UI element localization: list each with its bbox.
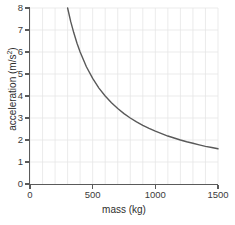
x-tick-label: 500 <box>85 190 101 200</box>
x-tick-label: 1000 <box>145 190 166 200</box>
y-tick-mark <box>25 29 29 30</box>
y-axis-label: acceleration (m/s2) <box>8 14 18 164</box>
x-axis-line <box>29 184 218 185</box>
x-tick-label: 0 <box>27 190 32 200</box>
y-tick-mark <box>25 7 29 8</box>
y-tick-mark <box>25 161 29 162</box>
acceleration-curve <box>68 8 218 149</box>
y-axis-label-tail: ) <box>7 47 18 50</box>
y-tick-label: 8 <box>0 3 23 13</box>
y-tick-mark <box>25 139 29 140</box>
y-axis-label-exponent: 2 <box>6 51 13 55</box>
data-curve-layer <box>30 8 218 184</box>
x-tick-label: 1500 <box>207 190 228 200</box>
y-tick-label: 0 <box>0 179 23 189</box>
acceleration-vs-mass-chart: 012345678 050010001500 mass (kg) acceler… <box>0 0 235 225</box>
y-tick-mark <box>25 73 29 74</box>
x-axis-label: mass (kg) <box>30 205 218 215</box>
y-axis-line <box>29 7 30 185</box>
y-tick-mark <box>25 95 29 96</box>
y-axis-label-text: acceleration (m/s <box>7 55 18 131</box>
y-tick-mark <box>25 117 29 118</box>
plot-area <box>30 8 218 184</box>
y-tick-mark <box>25 51 29 52</box>
y-tick-mark <box>25 183 29 184</box>
